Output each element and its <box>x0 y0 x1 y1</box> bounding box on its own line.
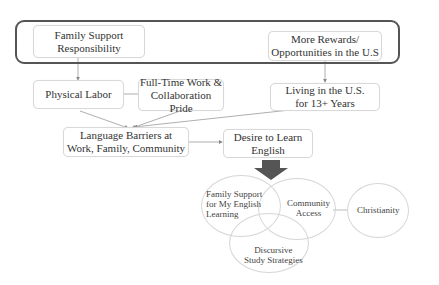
box-desire-to-learn: Desire to LearnEnglish <box>223 129 313 158</box>
venn-label-family-support: Family Support for My English Learning <box>206 189 262 219</box>
label: Desire to Learn <box>234 131 302 143</box>
label: Full-Time Work & <box>140 76 222 88</box>
box-family-support-responsibility: Family SupportResponsibility <box>33 25 145 58</box>
label: Physical Labor <box>45 88 111 101</box>
venn-label-discursive-study: Discursive Study Strategies <box>244 245 303 265</box>
venn-label-christianity: Christianity <box>357 205 400 215</box>
venn-label-community-access: Community Access <box>287 198 330 218</box>
box-full-time-work: Full-Time Work &Collaboration Pride <box>138 79 224 111</box>
label: for 13+ Years <box>295 97 355 109</box>
box-language-barriers: Language Barriers atWork, Family, Commun… <box>63 127 189 157</box>
label: Family Support <box>55 29 124 41</box>
label: Opportunities in the U.S <box>271 46 379 58</box>
label: Language Barriers at <box>80 129 172 141</box>
arrow-labor-to-barriers <box>80 111 128 128</box>
box-more-rewards: More Rewards/Opportunities in the U.S <box>268 31 382 61</box>
label: Collaboration Pride <box>151 89 212 114</box>
label: Responsibility <box>57 42 121 54</box>
label: Living in the U.S. <box>285 84 364 96</box>
box-physical-labor: Physical Labor <box>33 80 124 109</box>
label: More Rewards/ <box>291 33 359 45</box>
label: Work, Family, Community <box>67 142 185 154</box>
label: English <box>251 144 285 156</box>
big-down-arrow <box>254 160 288 180</box>
box-living-in-us: Living in the U.S.for 13+ Years <box>270 83 380 111</box>
